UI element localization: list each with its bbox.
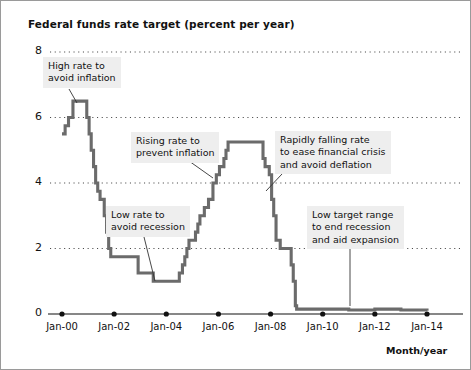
x-axis-tick-marker	[268, 311, 273, 316]
plot-area: 02468Jan-00Jan-02Jan-04Jan-06Jan-08Jan-1…	[1, 1, 471, 370]
annotation-line: to ease financial crisis	[280, 146, 386, 158]
x-axis-tick-marker	[320, 311, 325, 316]
x-axis-title: Month/year	[386, 345, 447, 356]
y-axis-tick-label: 8	[24, 44, 42, 57]
annotation-line: High rate to	[48, 60, 116, 72]
y-axis-tick-label: 6	[24, 110, 42, 123]
x-axis-tick-marker	[424, 311, 429, 316]
annotation-line: avoid inflation	[48, 72, 116, 84]
annotation-line: and aid expansion	[312, 234, 399, 246]
x-axis-tick-label: Jan-08	[244, 321, 298, 332]
x-axis-tick-label: Jan-06	[191, 321, 245, 332]
annotation-low-target-range: Low target rangeto end recessionand aid …	[307, 206, 404, 249]
x-axis-tick-label: Jan-10	[296, 321, 350, 332]
x-axis-tick-label: Jan-14	[400, 321, 454, 332]
x-axis-tick-label: Jan-02	[87, 321, 141, 332]
x-axis-tick-label: Jan-04	[139, 321, 193, 332]
annotation-low-rate: Low rate toavoid recession	[106, 206, 190, 237]
annotation-line: Rapidly falling rate	[280, 134, 386, 146]
annotation-line: Low target range	[312, 209, 399, 221]
y-axis-tick-label: 4	[24, 175, 42, 188]
annotation-rising-rate: Rising rate toprevent inflation	[131, 132, 219, 163]
y-axis-tick-label: 0	[24, 306, 42, 319]
x-axis-tick-marker	[216, 311, 221, 316]
x-axis-tick-marker	[112, 311, 117, 316]
annotation-leader-line	[266, 174, 282, 191]
chart-figure: Federal funds rate target (percent per y…	[0, 0, 471, 370]
annotation-high-rate: High rate toavoid inflation	[43, 57, 121, 88]
annotation-line: Low rate to	[111, 209, 185, 221]
x-axis-tick-label: Jan-00	[35, 321, 89, 332]
x-axis-tick-marker	[164, 311, 169, 316]
x-axis-tick-marker	[372, 311, 377, 316]
x-axis-tick-marker	[59, 311, 64, 316]
annotation-line: avoid recession	[111, 221, 185, 233]
annotation-line: to end recession	[312, 221, 399, 233]
annotation-line: and avoid deflation	[280, 159, 386, 171]
annotation-line: prevent inflation	[136, 147, 214, 159]
y-axis-tick-label: 2	[24, 241, 42, 254]
annotation-leader-line	[189, 161, 213, 178]
annotation-line: Rising rate to	[136, 135, 214, 147]
annotation-falling-rate: Rapidly falling rateto ease financial cr…	[275, 131, 391, 174]
x-axis-tick-label: Jan-12	[348, 321, 402, 332]
